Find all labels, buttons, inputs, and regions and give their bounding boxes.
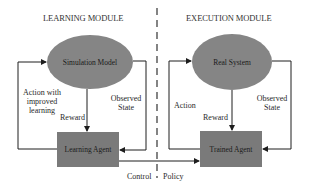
action-label-line-2: improved — [20, 97, 64, 106]
action-label-execution: Action — [174, 101, 196, 110]
action-improved-learning-label: Action with improved learning — [20, 88, 64, 115]
observed-label-line-1: Observed — [106, 94, 146, 103]
observed-label-line-1: Observed — [252, 94, 292, 103]
reward-label-execution: Reward — [203, 113, 228, 122]
action-label-line-3: learning — [20, 106, 64, 115]
action-label-line-1: Action with — [20, 88, 64, 97]
learning-module-heading: LEARNING MODULE — [43, 14, 123, 23]
observed-state-label-learning: Observed State — [106, 94, 146, 112]
observed-label-line-2: State — [252, 103, 292, 112]
simulation-model-label: Simulation Model — [47, 57, 133, 67]
execution-module-heading: EXECUTION MODULE — [186, 14, 272, 23]
control-label: Control — [127, 172, 151, 181]
observed-state-label-execution: Observed State — [252, 94, 292, 112]
learning-agent-label: Learning Agent — [57, 144, 119, 154]
trained-agent-label: Trained Agent — [200, 144, 262, 154]
observed-label-line-2: State — [106, 103, 146, 112]
policy-label: Policy — [163, 172, 183, 181]
reward-label-learning: Reward — [60, 113, 85, 122]
real-system-label: Real System — [192, 57, 272, 67]
